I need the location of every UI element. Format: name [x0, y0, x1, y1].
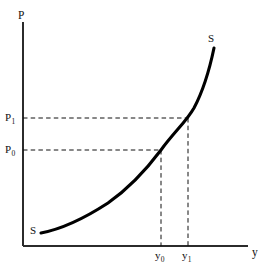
x-axis-title: y	[252, 247, 258, 259]
y-tick-label-p1: P1	[5, 112, 15, 123]
y-axis-title: P	[18, 10, 24, 22]
x-tick-label-y1: y1	[182, 250, 192, 261]
supply-curve-figure: P y P1 P0 y0 y1 S S	[0, 0, 270, 271]
y-tick-p0-subscript: 0	[11, 149, 15, 158]
curve-label-top: S	[208, 33, 214, 44]
x-tick-y0-base: y	[155, 249, 161, 261]
y-tick-label-p0: P0	[5, 144, 15, 155]
plot-canvas	[0, 0, 270, 271]
x-tick-y1-base: y	[182, 249, 188, 261]
x-tick-y0-subscript: 0	[161, 255, 165, 264]
x-tick-label-y0: y0	[155, 250, 165, 261]
x-tick-y1-subscript: 1	[188, 255, 192, 264]
curve-label-bottom: S	[30, 225, 36, 236]
y-tick-p1-subscript: 1	[11, 117, 15, 126]
